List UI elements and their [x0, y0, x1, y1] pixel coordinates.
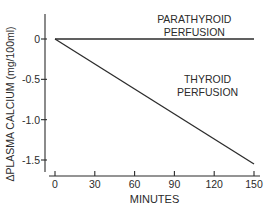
y-tick-label: 0 [34, 33, 40, 45]
x-tick-label: 150 [245, 178, 263, 190]
y-ticks: 0-0.5-1.0-1.5 [22, 33, 47, 166]
y-tick-label: -1.0 [22, 114, 40, 126]
x-axis-label: MINUTES [130, 193, 180, 205]
x-tick-label: 60 [129, 178, 141, 190]
x-tick-label: 30 [89, 178, 101, 190]
annotation-line: THYROID [184, 73, 232, 85]
series-line-thyroid [55, 39, 254, 164]
annotation-thyroid: THYROIDPERFUSION [177, 73, 238, 98]
annotation-line: PERFUSION [164, 26, 225, 38]
x-tick-label: 0 [52, 178, 58, 190]
annotations: PARATHYROIDPERFUSIONTHYROIDPERFUSION [157, 13, 238, 99]
y-tick-label: -1.5 [22, 154, 40, 166]
annotation-line: PARATHYROID [157, 13, 232, 25]
y-axis-label: ΔPLASMA CALCIUM (mg/100ml) [4, 26, 16, 181]
x-ticks: 0306090120150 [52, 171, 263, 190]
chart: 0-0.5-1.0-1.5 0306090120150 PARATHYROIDP… [0, 0, 277, 211]
y-tick-label: -0.5 [22, 73, 40, 85]
x-tick-label: 120 [205, 178, 223, 190]
series-group [55, 39, 254, 164]
x-tick-label: 90 [169, 178, 181, 190]
annotation-parathyroid: PARATHYROIDPERFUSION [157, 13, 232, 38]
annotation-line: PERFUSION [177, 86, 238, 98]
